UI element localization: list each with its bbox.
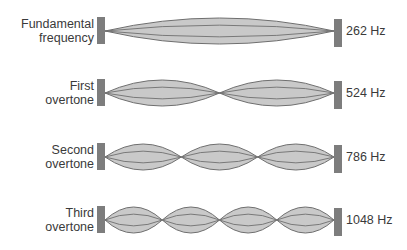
wave-loop [277,207,334,233]
left-clamp-bar [97,79,105,106]
right-clamp-bar [334,19,342,47]
wave-loop [105,18,334,44]
wave-loop [220,80,335,106]
left-clamp-bar [97,143,105,170]
left-clamp-bar [97,206,105,233]
wave-loop [105,207,162,233]
wave-loop [162,207,219,233]
right-clamp-bar [334,81,342,109]
wave-loop [105,80,220,106]
wave-loop [105,144,181,170]
string-waves-graphic [0,0,407,250]
wave-loop [181,144,257,170]
left-clamp-bar [97,17,105,44]
wave-loop [220,207,277,233]
right-clamp-bar [334,145,342,173]
right-clamp-bar [334,208,342,236]
wave-loop [258,144,334,170]
